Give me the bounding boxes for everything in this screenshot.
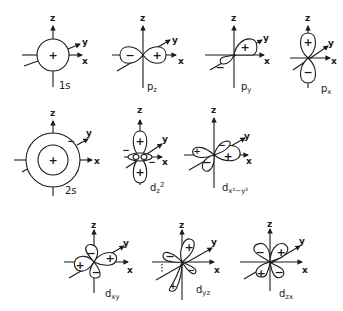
plus-sign: + [223,150,232,163]
orbital-name-dyz: dyz [196,284,211,297]
x-axis-label: x [162,157,168,167]
x-axis-label: x [94,156,100,166]
orbital-dyz: + − − + z y x dyz [152,220,220,300]
x-axis-label: x [214,265,220,275]
orbital-name-px: px [321,83,332,96]
minus-sign: − [218,140,226,150]
plus-sign: + [276,246,285,259]
x-axis-label: x [178,56,184,66]
minus-sign: − [202,156,211,169]
plus-sign: + [240,41,249,54]
minus-sign: − [274,266,283,279]
plus-sign: + [135,135,144,148]
orbital-px: + − z y x px [290,13,337,96]
orbital-name-2s: 2s [65,185,77,196]
y-axis-label: y [328,38,334,48]
plus-sign: + [303,36,312,49]
y-axis-label: y [162,134,168,144]
plus-sign: + [135,166,144,179]
z-axis-label: z [231,13,236,23]
minus-sign: − [86,247,95,260]
y-axis-label: y [263,33,269,43]
orbital-diagram: + z y x 1s − + z y x pz + − z y x py [0,0,343,311]
z-axis-label: z [305,13,310,23]
orbital-2s: + − z y x 2s [14,108,100,196]
z-axis-label: z [140,13,145,23]
plus-sign: + [193,146,201,156]
orbital-dx2-y2: + + − − z y x dx²−y² [184,105,252,195]
plus-sign: + [152,49,161,62]
orbital-name-py: py [241,81,252,94]
z-axis-label: z [50,13,55,23]
x-axis-label: x [246,156,252,166]
minus-sign: − [303,66,312,79]
minus-sign: − [122,145,130,155]
minus-sign: − [148,157,156,167]
minus-sign: − [255,246,264,259]
minus-sign: − [125,49,134,62]
z-axis-label: z [211,105,216,115]
z-axis-label: z [137,105,142,115]
orbital-dxy: + + − − z y x dxy [64,220,133,301]
z-axis-label: z [91,220,96,230]
y-axis-label: y [123,238,129,248]
orbital-dzx: − + + − z y x dzx [240,219,308,301]
y-axis-label: y [211,237,217,247]
minus-sign: − [165,250,174,263]
plus-sign: + [105,252,114,265]
y-axis-label: y [172,35,178,45]
plus-sign: + [256,267,265,280]
plus-sign: + [169,281,177,291]
orbital-name-dx2-y2: dx²−y² [222,182,248,195]
orbital-name-dxy: dxy [105,288,120,301]
plus-sign: + [184,241,193,254]
z-axis-label: z [179,220,184,230]
x-axis-label: x [264,56,270,66]
plus-sign: + [75,259,84,272]
plus-sign: + [48,154,57,167]
z-axis-label: z [267,219,272,229]
x-axis-label: x [302,265,308,275]
x-axis-label: x [331,56,337,66]
orbital-name-1s: 1s [59,80,71,91]
minus-sign: − [187,265,195,275]
y-axis-label: y [86,128,92,138]
y-axis-label: y [299,236,305,246]
z-axis-label: z [50,108,55,118]
y-axis-label: y [244,131,250,141]
minus-sign: − [67,136,75,146]
minus-sign: − [91,266,100,279]
y-axis-label: y [82,37,88,47]
x-axis-label: x [127,265,133,275]
orbital-name-dzx: dzx [279,288,293,301]
orbital-name-dz2: dz2 [150,181,165,195]
x-axis-label: x [82,56,88,66]
minus-sign: − [215,61,224,74]
plus-sign: + [48,49,57,62]
orbital-dz2: + + − − z y x dz2 [122,105,168,195]
orbital-name-pz: pz [147,81,157,94]
orbital-py: + − z y x py [205,13,270,94]
orbital-1s: + z y x 1s [22,13,88,91]
orbital-pz: − + z y x pz [112,13,184,94]
